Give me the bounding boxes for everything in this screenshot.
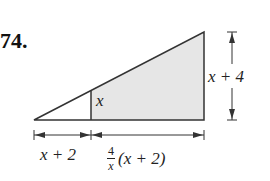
left-base-label: x + 2 (40, 146, 76, 163)
fraction-four-over-x: 4 x (107, 145, 115, 172)
fraction-numerator: 4 (108, 145, 114, 157)
fraction-denominator: x (108, 160, 113, 172)
right-height-label: x + 4 (208, 68, 244, 85)
inner-height-label: x (96, 92, 104, 109)
base-dimension-lines (34, 130, 204, 140)
right-base-label: 4 x (x + 2) (107, 143, 165, 173)
right-base-expression: (x + 2) (118, 150, 165, 167)
shaded-region (91, 32, 204, 120)
